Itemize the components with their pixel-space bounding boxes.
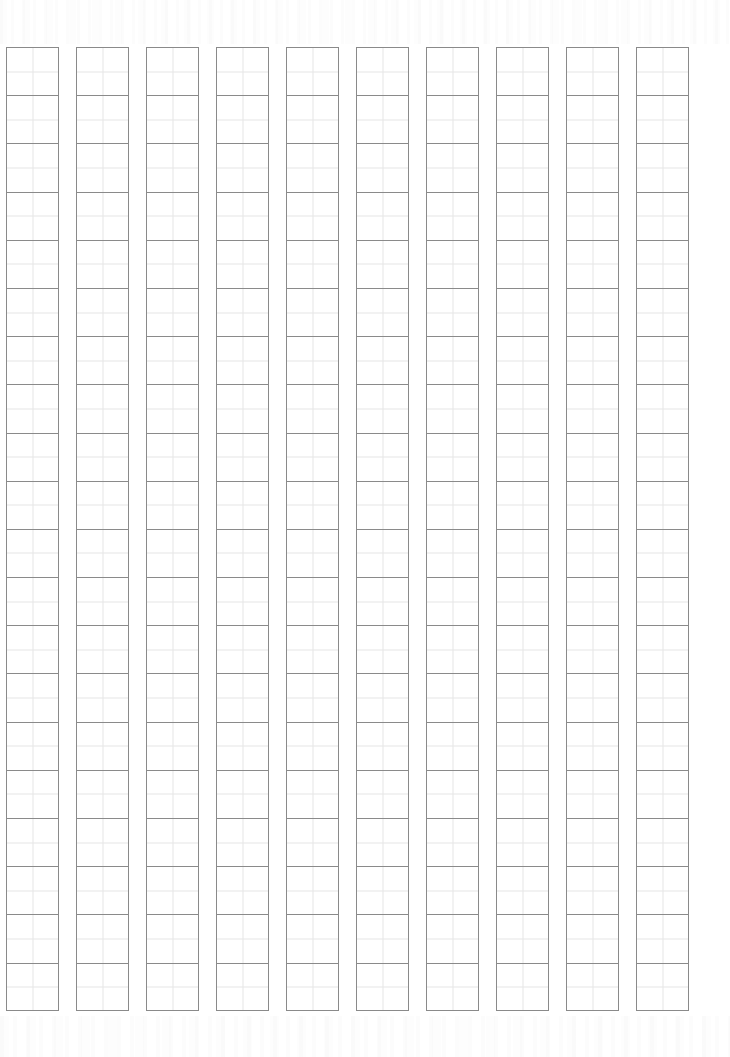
grid-cell[interactable] (566, 95, 619, 143)
grid-cell[interactable] (286, 47, 339, 95)
grid-cell[interactable] (216, 625, 269, 673)
grid-cell[interactable] (76, 577, 129, 625)
grid-cell[interactable] (426, 818, 479, 866)
grid-cell[interactable] (496, 336, 549, 384)
grid-cell[interactable] (216, 818, 269, 866)
grid-cell[interactable] (496, 433, 549, 481)
grid-cell[interactable] (566, 336, 619, 384)
grid-cell[interactable] (496, 95, 549, 143)
grid-cell[interactable] (356, 481, 409, 529)
grid-cell[interactable] (496, 722, 549, 770)
grid-cell[interactable] (566, 818, 619, 866)
grid-cell[interactable] (496, 866, 549, 914)
grid-cell[interactable] (6, 577, 59, 625)
grid-cell[interactable] (496, 914, 549, 962)
grid-cell[interactable] (426, 914, 479, 962)
grid-cell[interactable] (566, 577, 619, 625)
grid-cell[interactable] (146, 481, 199, 529)
grid-cell[interactable] (146, 47, 199, 95)
grid-cell[interactable] (216, 288, 269, 336)
grid-cell[interactable] (496, 818, 549, 866)
grid-cell[interactable] (216, 673, 269, 721)
grid-cell[interactable] (356, 529, 409, 577)
grid-cell[interactable] (146, 963, 199, 1011)
grid-cell[interactable] (636, 818, 689, 866)
grid-cell[interactable] (636, 95, 689, 143)
grid-cell[interactable] (426, 722, 479, 770)
grid-cell[interactable] (146, 914, 199, 962)
grid-cell[interactable] (426, 963, 479, 1011)
grid-cell[interactable] (76, 529, 129, 577)
grid-cell[interactable] (496, 625, 549, 673)
grid-cell[interactable] (566, 866, 619, 914)
grid-cell[interactable] (636, 529, 689, 577)
grid-cell[interactable] (216, 192, 269, 240)
grid-cell[interactable] (426, 288, 479, 336)
grid-cell[interactable] (566, 47, 619, 95)
grid-cell[interactable] (76, 47, 129, 95)
grid-cell[interactable] (6, 529, 59, 577)
grid-cell[interactable] (286, 963, 339, 1011)
grid-cell[interactable] (76, 818, 129, 866)
grid-cell[interactable] (426, 529, 479, 577)
grid-cell[interactable] (286, 722, 339, 770)
grid-cell[interactable] (496, 529, 549, 577)
grid-cell[interactable] (426, 143, 479, 191)
grid-cell[interactable] (356, 770, 409, 818)
grid-cell[interactable] (636, 914, 689, 962)
grid-cell[interactable] (356, 95, 409, 143)
grid-cell[interactable] (76, 336, 129, 384)
grid-cell[interactable] (286, 192, 339, 240)
grid-cell[interactable] (146, 625, 199, 673)
grid-cell[interactable] (286, 481, 339, 529)
grid-cell[interactable] (216, 914, 269, 962)
grid-cell[interactable] (566, 481, 619, 529)
grid-cell[interactable] (566, 288, 619, 336)
grid-cell[interactable] (496, 963, 549, 1011)
grid-cell[interactable] (356, 384, 409, 432)
grid-cell[interactable] (286, 866, 339, 914)
grid-cell[interactable] (636, 577, 689, 625)
grid-cell[interactable] (286, 336, 339, 384)
grid-cell[interactable] (496, 770, 549, 818)
grid-cell[interactable] (496, 192, 549, 240)
grid-cell[interactable] (356, 433, 409, 481)
grid-cell[interactable] (356, 143, 409, 191)
grid-cell[interactable] (146, 722, 199, 770)
grid-cell[interactable] (356, 288, 409, 336)
grid-cell[interactable] (636, 963, 689, 1011)
grid-cell[interactable] (636, 625, 689, 673)
grid-cell[interactable] (216, 481, 269, 529)
grid-cell[interactable] (496, 577, 549, 625)
grid-cell[interactable] (636, 288, 689, 336)
grid-cell[interactable] (426, 336, 479, 384)
grid-cell[interactable] (426, 625, 479, 673)
grid-cell[interactable] (286, 625, 339, 673)
grid-cell[interactable] (566, 433, 619, 481)
grid-cell[interactable] (146, 673, 199, 721)
grid-cell[interactable] (6, 288, 59, 336)
grid-cell[interactable] (426, 47, 479, 95)
grid-cell[interactable] (566, 673, 619, 721)
grid-cell[interactable] (76, 866, 129, 914)
grid-cell[interactable] (356, 240, 409, 288)
grid-cell[interactable] (636, 673, 689, 721)
grid-cell[interactable] (146, 770, 199, 818)
grid-cell[interactable] (76, 673, 129, 721)
grid-cell[interactable] (6, 673, 59, 721)
grid-cell[interactable] (566, 625, 619, 673)
grid-cell[interactable] (76, 288, 129, 336)
grid-cell[interactable] (216, 963, 269, 1011)
grid-cell[interactable] (286, 240, 339, 288)
grid-cell[interactable] (426, 577, 479, 625)
grid-cell[interactable] (636, 336, 689, 384)
grid-cell[interactable] (216, 722, 269, 770)
grid-cell[interactable] (566, 529, 619, 577)
grid-cell[interactable] (356, 673, 409, 721)
grid-cell[interactable] (426, 481, 479, 529)
grid-cell[interactable] (146, 866, 199, 914)
grid-cell[interactable] (146, 818, 199, 866)
grid-cell[interactable] (6, 336, 59, 384)
grid-cell[interactable] (426, 433, 479, 481)
grid-cell[interactable] (426, 95, 479, 143)
